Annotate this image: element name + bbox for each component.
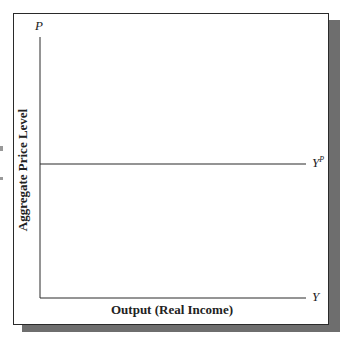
diagram-axes <box>0 0 350 343</box>
curve-label-superscript: P <box>319 155 324 164</box>
curve-label: YP <box>312 155 324 171</box>
x-axis-symbol: Y <box>312 289 319 305</box>
y-axis-symbol: P <box>35 18 43 34</box>
x-axis-label: Output (Real Income) <box>111 302 233 318</box>
y-axis-label: Aggregate Price Level <box>15 109 31 231</box>
